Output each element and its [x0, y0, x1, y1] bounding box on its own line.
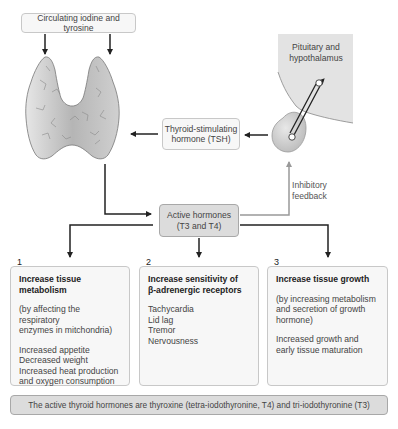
effect-3-items: Increased growth and early tissue matura…: [276, 334, 379, 355]
effect-1-item: Increased appetite: [19, 345, 121, 356]
active-hormones-box: Active hormones (T3 and T4): [159, 204, 239, 237]
effect-1-items: Increased appetite Decreased weight Incr…: [19, 345, 121, 387]
arrow-active-to-metabolism: [70, 225, 153, 257]
effect-3-note-line1: (by increasing metabolism: [276, 294, 379, 305]
effect-2-title-line2: β-adrenergic receptors: [148, 285, 250, 296]
effect-1-note-line2: enzymes in mitchondria): [19, 325, 121, 336]
effect-metabolism-card: Increase tissue metabolism (by affecting…: [10, 266, 130, 386]
inhibitory-feedback-label: Inhibitory feedback: [292, 180, 327, 201]
effect-2-item: Tachycardia: [148, 304, 250, 315]
pituitary-label-line2: hypothalamus: [280, 53, 352, 64]
footer-note-box: The active thyroid hormones are thyroxin…: [10, 395, 388, 415]
effect-3-item: Increased growth and: [276, 334, 379, 345]
tsh-label-line2: hormone (TSH): [171, 134, 230, 145]
effect-1-item: Increased heat production: [19, 366, 121, 377]
effect-1-title: Increase tissue metabolism: [19, 274, 121, 295]
arrow-thyroid-to-active: [105, 164, 151, 214]
tsh-label-line1: Thyroid-stimulating: [165, 124, 238, 135]
thyroid-gland-icon: [26, 57, 119, 159]
effect-2-item: Tremor: [148, 325, 250, 336]
active-label-line1: Active hormones: [167, 210, 231, 221]
effect-sensitivity-card: Increase sensitivity of β-adrenergic rec…: [139, 266, 259, 386]
effect-growth-card: Increase tissue growth (by increasing me…: [267, 266, 388, 386]
active-label-line2: (T3 and T4): [177, 221, 222, 232]
feedback-label-line2: feedback: [292, 191, 327, 202]
effect-2-items: Tachycardia Lid lag Tremor Nervousness: [148, 304, 250, 346]
effect-3-item: early tissue maturation: [276, 345, 379, 356]
pituitary-label-line1: Pituitary and: [280, 42, 352, 53]
effect-2-item: Nervousness: [148, 336, 250, 347]
feedback-label-line1: Inhibitory: [292, 180, 327, 191]
effect-2-item: Lid lag: [148, 315, 250, 326]
pituitary-label: Pituitary and hypothalamus: [280, 42, 352, 63]
effect-3-note: (by increasing metabolism and secretion …: [276, 294, 379, 326]
effect-1-item: and oxygen consumption: [19, 376, 121, 387]
effect-2-title: Increase sensitivity of β-adrenergic rec…: [148, 274, 250, 295]
effect-1-item: Decreased weight: [19, 355, 121, 366]
iodine-tyrosine-box: Circulating iodine and tyrosine: [21, 13, 136, 33]
effect-1-note-line1: (by affecting the respiratory: [19, 304, 121, 325]
effect-3-note-line2: and secretion of growth: [276, 304, 379, 315]
effect-1-note: (by affecting the respiratory enzymes in…: [19, 304, 121, 336]
tsh-box: Thyroid-stimulating hormone (TSH): [162, 118, 240, 150]
footer-note: The active thyroid hormones are thyroxin…: [28, 400, 370, 411]
arrow-active-to-growth: [240, 225, 328, 257]
iodine-tyrosine-label: Circulating iodine and tyrosine: [22, 13, 135, 34]
arrow-inhibitory-feedback: [240, 162, 289, 215]
effect-3-title: Increase tissue growth: [276, 274, 379, 285]
effect-3-note-line3: hormone): [276, 315, 379, 326]
effect-2-title-line1: Increase sensitivity of: [148, 274, 250, 285]
